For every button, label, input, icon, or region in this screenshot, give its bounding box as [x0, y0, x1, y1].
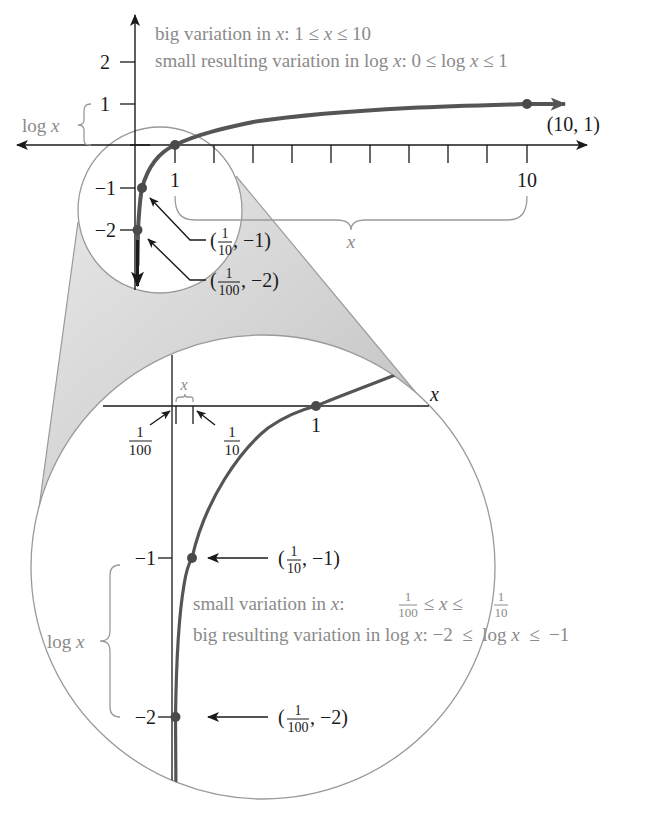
- x-tick-label-1: 1: [170, 169, 180, 191]
- y-tick-label-1: 1: [100, 93, 110, 115]
- svg-text:(: (: [278, 706, 285, 729]
- zoom-point-tenth-neg1: [187, 553, 197, 563]
- zoom-log-x-brace-label: log x: [47, 631, 85, 652]
- magnifier-lens-circle: [78, 127, 242, 293]
- svg-text:small variation in x:: small variation in x:: [193, 593, 344, 614]
- zoom-x-tick-label-1: 1: [311, 414, 321, 436]
- point-hundredth-neg2: [133, 225, 143, 235]
- svg-text:100: 100: [129, 442, 152, 458]
- svg-text:1: 1: [295, 703, 302, 718]
- zoom-y-tick-label-neg1: −1: [135, 547, 156, 569]
- point-tenth-neg1: [137, 183, 147, 193]
- svg-text:1: 1: [228, 424, 236, 440]
- top-note-line2: small resulting variation in log x: 0 ≤ …: [155, 50, 508, 71]
- svg-text:, −1): , −1): [233, 229, 271, 252]
- svg-text:1: 1: [222, 226, 229, 241]
- svg-text:10: 10: [495, 605, 508, 620]
- x-ticks: [175, 145, 527, 163]
- log-x-brace: [78, 104, 91, 145]
- svg-text:1: 1: [136, 424, 144, 440]
- point-label-10-1: (10, 1): [547, 113, 600, 136]
- svg-text:, −1): , −1): [302, 547, 340, 570]
- log-x-brace-label: log x: [22, 115, 60, 136]
- svg-text:, −2): , −2): [310, 706, 348, 729]
- svg-text:100: 100: [219, 283, 240, 298]
- svg-text:1: 1: [405, 589, 412, 604]
- svg-text:100: 100: [288, 720, 309, 735]
- svg-text:, −2): , −2): [241, 269, 279, 292]
- svg-text:10: 10: [287, 561, 301, 576]
- svg-text:10: 10: [225, 442, 240, 458]
- magnified-circle: [31, 335, 495, 799]
- x-range-brace-label: x: [346, 231, 356, 252]
- svg-text:(: (: [210, 269, 217, 292]
- x-tick-label-10: 10: [517, 169, 537, 191]
- zoom-note-line2: big resulting variation in log x: −2 ≤ l…: [193, 624, 569, 645]
- y-tick-label-neg2: −2: [95, 219, 116, 241]
- y-tick-label-neg1: −1: [95, 177, 116, 199]
- zoom-point-1-0: [311, 401, 321, 411]
- zoom-x-axis-label: x: [429, 383, 439, 405]
- y-tick-label-2: 2: [100, 51, 110, 73]
- zoom-point-hundredth-neg2: [171, 712, 181, 722]
- svg-text:≤ x ≤: ≤ x ≤: [419, 593, 467, 614]
- svg-text:10: 10: [218, 243, 232, 258]
- point-10-1: [522, 99, 532, 109]
- svg-text:1: 1: [226, 266, 233, 281]
- point-1-0: [170, 140, 180, 150]
- zoom-y-tick-label-neg2: −2: [135, 706, 156, 728]
- log-graph-figure: 2 1 −1 −2 1 10 (10, 1) big variation in …: [0, 0, 665, 825]
- zoom-small-x-brace-label: x: [179, 376, 187, 393]
- svg-text:(: (: [278, 547, 285, 570]
- svg-text:(: (: [210, 229, 217, 252]
- top-note-line1: big variation in x: 1 ≤ x ≤ 10: [155, 23, 371, 44]
- svg-text:1: 1: [291, 544, 298, 559]
- svg-text:1: 1: [498, 589, 505, 604]
- svg-text:100: 100: [398, 605, 418, 620]
